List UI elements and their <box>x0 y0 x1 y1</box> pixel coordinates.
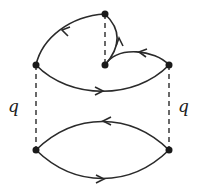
vertex-bottom-left <box>33 147 40 154</box>
vertex-right <box>166 62 173 69</box>
vertex-mid <box>102 62 109 69</box>
propagator-right-mid <box>105 52 169 65</box>
vertex-left <box>33 62 40 69</box>
label-q-right: q <box>178 96 189 116</box>
propagator-left-right <box>36 65 169 91</box>
propagator-bottom-lower <box>36 150 169 179</box>
propagator-bottom-upper <box>36 122 169 151</box>
vertex-bottom-right <box>166 147 173 154</box>
label-q-left: q <box>8 96 19 116</box>
propagator-top-left <box>36 14 105 65</box>
vertex-top <box>102 11 109 18</box>
diagram-graphic <box>0 0 202 190</box>
feynman-diagram: q q <box>0 0 202 190</box>
